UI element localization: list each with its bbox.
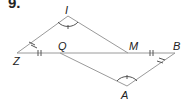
geometry-figure: 9. [0,0,188,109]
point-label-m: M [129,41,138,52]
point-label-i: I [65,5,68,16]
figure-lines [0,0,188,109]
point-label-b: B [173,41,180,52]
point-label-z: Z [13,56,20,67]
point-label-a: A [121,90,128,101]
point-label-q: Q [58,41,67,52]
